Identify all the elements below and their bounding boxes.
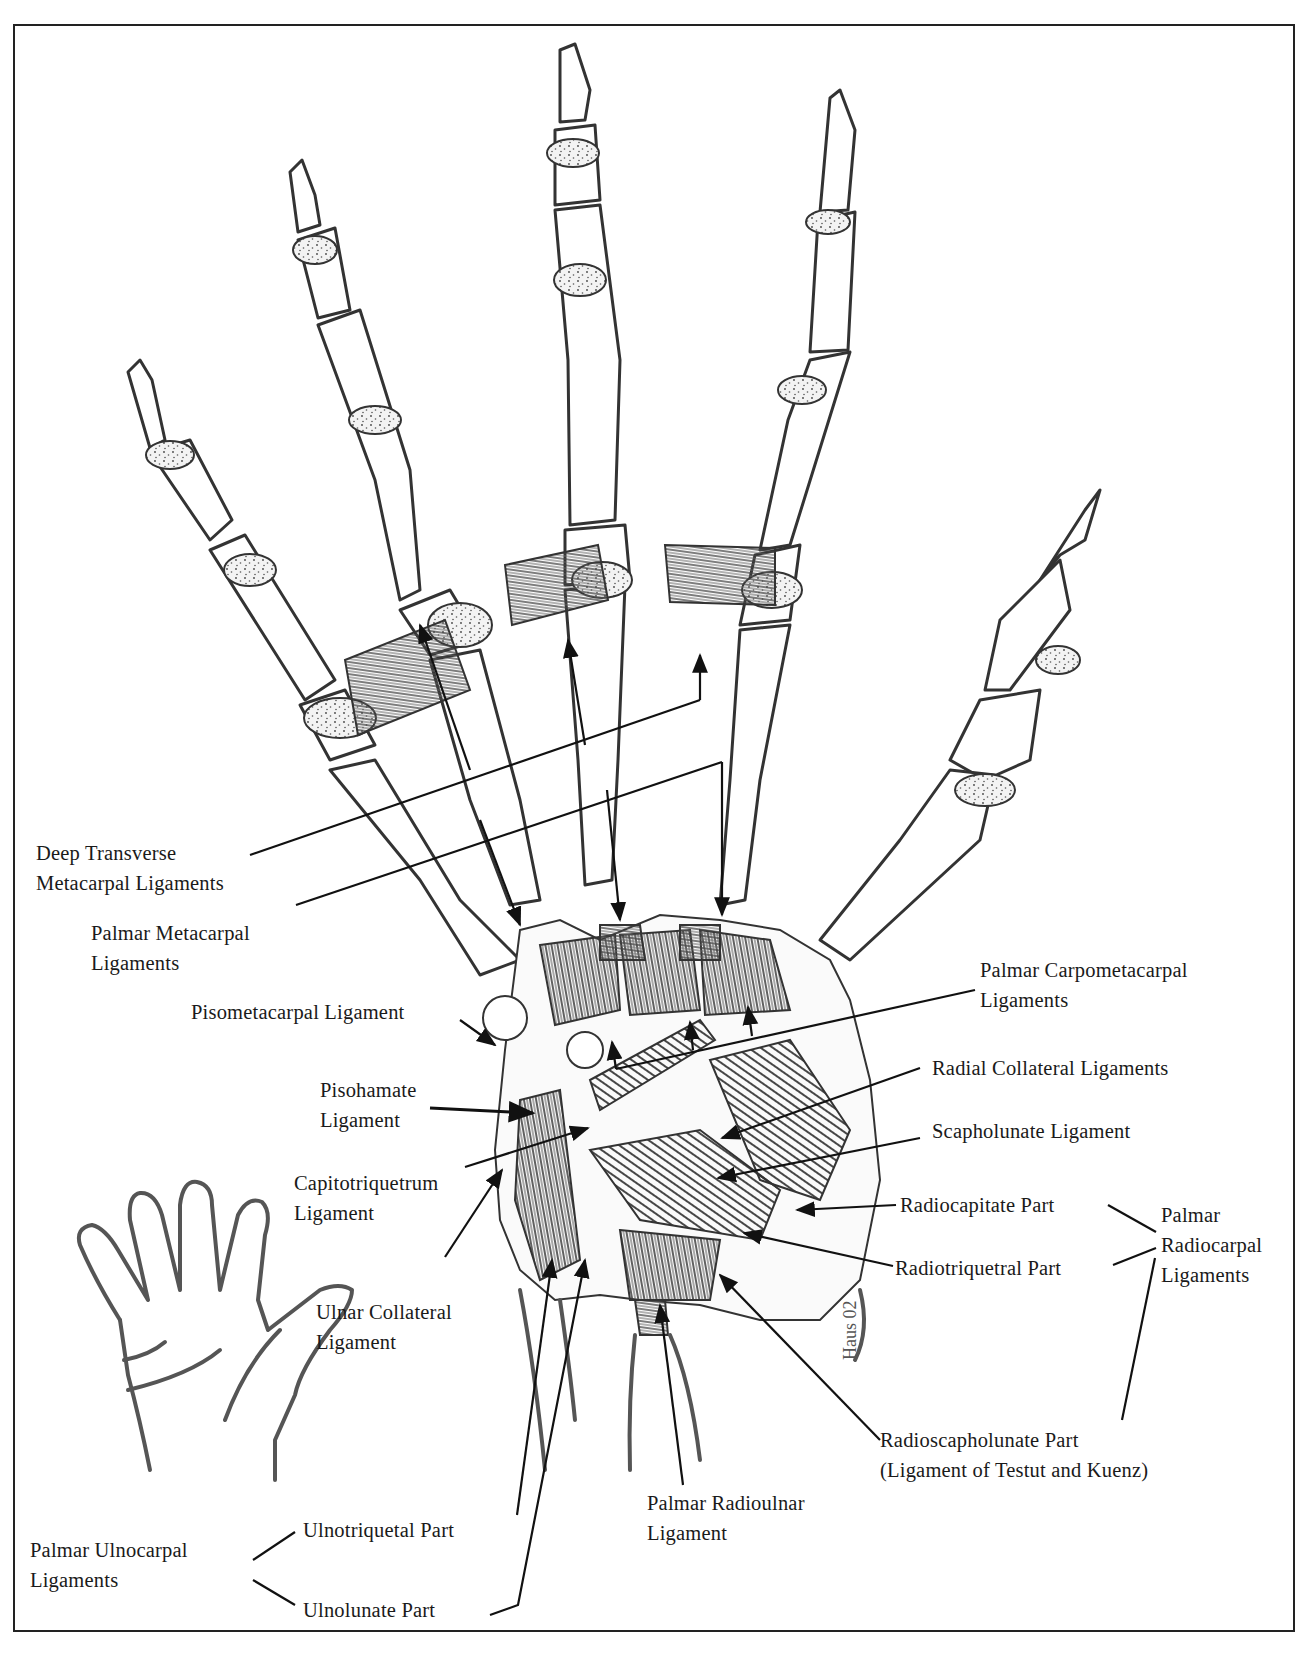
- label-pisohamate-ligament: Pisohamate Ligament: [320, 1075, 417, 1135]
- label-line: Ligament: [647, 1518, 805, 1548]
- label-deep-transverse-metacarpal-ligaments: Deep Transverse Metacarpal Ligaments: [36, 838, 224, 898]
- label-line: Ulnolunate Part: [303, 1595, 435, 1625]
- label-line: Palmar: [1161, 1200, 1262, 1230]
- label-line: Capitotriquetrum: [294, 1168, 438, 1198]
- middle-finger-bones: [555, 44, 630, 885]
- label-ulnar-collateral-ligament: Ulnar Collateral Ligament: [316, 1297, 452, 1357]
- label-line: Radiocarpal: [1161, 1230, 1262, 1260]
- label-line: Ligament: [316, 1327, 452, 1357]
- label-palmar-ulnocarpal-ligaments: Palmar Ulnocarpal Ligaments: [30, 1535, 188, 1595]
- label-line: Radiocapitate Part: [900, 1190, 1054, 1220]
- label-line: Pisohamate: [320, 1075, 417, 1105]
- label-line: Scapholunate Ligament: [932, 1116, 1130, 1146]
- label-scapholunate-ligament: Scapholunate Ligament: [932, 1116, 1130, 1146]
- label-line: Ligaments: [91, 948, 250, 978]
- label-ulnotriquetal-part: Ulnotriquetal Part: [303, 1515, 454, 1545]
- label-line: Metacarpal Ligaments: [36, 868, 224, 898]
- label-palmar-metacarpal-ligaments: Palmar Metacarpal Ligaments: [91, 918, 250, 978]
- label-line: Radioscapholunate Part: [880, 1425, 1148, 1455]
- label-radioscapholunate-part: Radioscapholunate Part (Ligament of Test…: [880, 1425, 1148, 1485]
- label-line: Ulnar Collateral: [316, 1297, 452, 1327]
- carpal-ligament-mass: [483, 915, 880, 1335]
- label-line: Ligaments: [980, 985, 1188, 1015]
- label-line: Palmar Carpometacarpal: [980, 955, 1188, 985]
- label-line: Ligaments: [1161, 1260, 1262, 1290]
- label-palmar-carpometacarpal-ligaments: Palmar Carpometacarpal Ligaments: [980, 955, 1188, 1015]
- label-line: Ligament: [320, 1105, 417, 1135]
- label-pisometacarpal-ligament: Pisometacarpal Ligament: [191, 997, 405, 1027]
- thumb-bones: [820, 490, 1100, 960]
- label-line: Ligament: [294, 1198, 438, 1228]
- label-line: Ligaments: [30, 1565, 188, 1595]
- label-line: Palmar Ulnocarpal: [30, 1535, 188, 1565]
- label-line: Radial Collateral Ligaments: [932, 1053, 1169, 1083]
- label-line: Palmar Radioulnar: [647, 1488, 805, 1518]
- label-palmar-radiocarpal-ligaments: Palmar Radiocarpal Ligaments: [1161, 1200, 1262, 1290]
- label-line: Deep Transverse: [36, 838, 224, 868]
- label-radiocapitate-part: Radiocapitate Part: [900, 1190, 1054, 1220]
- label-line: Pisometacarpal Ligament: [191, 997, 405, 1027]
- label-line: Radiotriquetral Part: [895, 1253, 1061, 1283]
- svg-text:Haus 02: Haus 02: [840, 1301, 860, 1361]
- label-ulnolunate-part: Ulnolunate Part: [303, 1595, 435, 1625]
- label-line: Ulnotriquetal Part: [303, 1515, 454, 1545]
- ring-finger-bones: [290, 160, 540, 905]
- label-line: Palmar Metacarpal: [91, 918, 250, 948]
- artist-signature: Haus 02: [840, 1301, 860, 1361]
- bones: [128, 44, 1100, 975]
- label-line: (Ligament of Testut and Kuenz): [880, 1455, 1148, 1485]
- label-capitotriquetrum-ligament: Capitotriquetrum Ligament: [294, 1168, 438, 1228]
- cropped-caption-area: [0, 1648, 1312, 1676]
- label-radial-collateral-ligaments: Radial Collateral Ligaments: [932, 1053, 1169, 1083]
- label-radiotriquetral-part: Radiotriquetral Part: [895, 1253, 1061, 1283]
- label-palmar-radioulnar-ligament: Palmar Radioulnar Ligament: [647, 1488, 805, 1548]
